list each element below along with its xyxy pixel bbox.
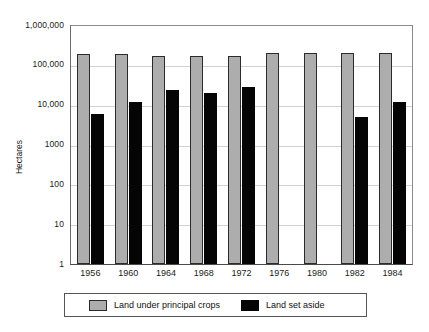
x-tick-label: 1956 [72, 268, 110, 278]
bar-land-set-aside [166, 90, 179, 264]
bar-land-set-aside [242, 87, 255, 264]
bar-land-under-principal-crops [379, 53, 392, 264]
bar-land-under-principal-crops [228, 56, 241, 264]
bar-land-under-principal-crops [115, 54, 128, 264]
bar-group [260, 25, 298, 264]
bar-group [109, 25, 147, 264]
bar-land-under-principal-crops [266, 53, 279, 264]
y-tick-label: 100,000 [0, 59, 64, 69]
y-tick-label: 1,000,000 [0, 20, 64, 30]
y-axis: 1,000,000 100,000 10,000 1000 100 10 1 H… [0, 0, 66, 332]
legend-swatch-aside-icon [241, 300, 259, 311]
bar-group [374, 25, 412, 264]
bar-land-set-aside [91, 114, 104, 264]
x-tick-label: 1980 [298, 268, 336, 278]
bars-layer [72, 25, 412, 264]
x-tick-label: 1972 [223, 268, 261, 278]
bar-land-under-principal-crops [190, 56, 203, 264]
bar-group [223, 25, 261, 264]
y-tick-label: 1 [0, 259, 64, 269]
x-tick-label: 1984 [374, 268, 412, 278]
bar-land-set-aside [355, 117, 368, 264]
legend-entry-crops: Land under principal crops [89, 294, 220, 316]
bar-group [72, 25, 110, 264]
x-tick-label: 1960 [109, 268, 147, 278]
bar-land-under-principal-crops [304, 53, 317, 264]
bar-group [298, 25, 336, 264]
bar-land-set-aside [393, 102, 406, 264]
y-axis-title: Hectares [14, 112, 24, 202]
legend-swatch-crops-icon [89, 300, 107, 311]
legend-label: Land under principal crops [114, 300, 220, 310]
bar-group [336, 25, 374, 264]
bar-group [147, 25, 185, 264]
bar-land-under-principal-crops [77, 54, 90, 264]
x-tick-label: 1968 [185, 268, 223, 278]
y-tick-label: 10 [0, 219, 64, 229]
chart-figure: 1,000,000 100,000 10,000 1000 100 10 1 H… [0, 0, 429, 332]
legend-entry-aside: Land set aside [241, 294, 325, 316]
x-tick-label: 1964 [147, 268, 185, 278]
legend-label: Land set aside [266, 300, 325, 310]
bar-group [185, 25, 223, 264]
y-tick-label: 1000 [0, 139, 64, 149]
chart-legend: Land under principal crops Land set asid… [64, 293, 367, 317]
bar-land-set-aside [129, 102, 142, 264]
bar-land-set-aside [204, 93, 217, 264]
bar-land-under-principal-crops [152, 56, 165, 264]
x-tick-label: 1976 [260, 268, 298, 278]
x-axis: 195619601964196819721976198019821984 [72, 268, 412, 284]
bar-land-under-principal-crops [341, 53, 354, 264]
x-tick-label: 1982 [336, 268, 374, 278]
y-tick-label: 10,000 [0, 99, 64, 109]
y-tick-label: 100 [0, 179, 64, 189]
